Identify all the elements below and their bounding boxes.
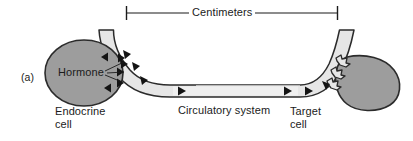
circulatory-vessel (99, 30, 354, 97)
panel-letter: (a) (21, 71, 34, 84)
vessel-lumen-highlight (173, 87, 298, 96)
endocrine-signaling-figure: (a) Centimeters Hormone Endocrine cell C… (0, 0, 413, 141)
hormone-label: Hormone (58, 66, 104, 79)
scale-bar-label: Centimeters (189, 6, 255, 19)
endocrine-cell-label: Endocrine cell (55, 105, 105, 130)
target-cell-label: Target cell (290, 105, 321, 130)
circulatory-system-label: Circulatory system (178, 104, 270, 117)
flow-marker-icon-1 (132, 62, 140, 71)
